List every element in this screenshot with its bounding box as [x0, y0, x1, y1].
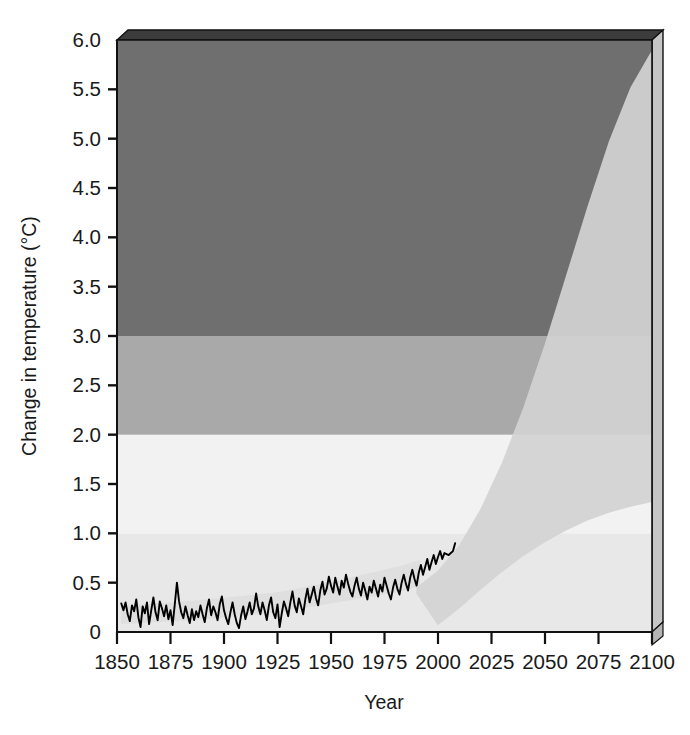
x-tick-label: 2075: [576, 650, 622, 673]
right-side-face: [652, 30, 663, 632]
y-tick-label: 1.0: [73, 521, 102, 544]
x-tick-label: 1950: [308, 650, 354, 673]
x-tick-label: 1925: [255, 650, 301, 673]
x-tick-label: 2100: [629, 650, 675, 673]
x-tick-label: 2025: [469, 650, 515, 673]
y-tick-label: 3.0: [73, 324, 102, 347]
y-tick-label: 0: [90, 620, 101, 643]
y-tick-label: 4.0: [73, 225, 102, 248]
y-tick-label: 2.0: [73, 423, 102, 446]
y-tick-label: 3.5: [73, 275, 102, 298]
x-tick-label: 1900: [201, 650, 247, 673]
y-axis-ticks: [108, 89, 117, 582]
y-tick-label: 2.5: [73, 373, 102, 396]
y-tick-label: 0.5: [73, 571, 102, 594]
x-tick-label: 2000: [415, 650, 461, 673]
x-tick-label: 1875: [148, 650, 194, 673]
y-axis-tick-labels: 00.51.01.52.02.53.03.54.04.55.05.56.0: [73, 28, 102, 643]
y-tick-label: 4.5: [73, 176, 102, 199]
x-axis-title: Year: [364, 691, 404, 713]
x-tick-label: 1850: [94, 650, 140, 673]
chart-canvas: 00.51.01.52.02.53.03.54.04.55.05.56.0 18…: [0, 0, 690, 735]
y-axis-title: Change in temperature (°C): [18, 216, 40, 456]
x-axis-ticks: [117, 632, 652, 644]
climate-projection-figure: 00.51.01.52.02.53.03.54.04.55.05.56.0 18…: [0, 0, 690, 735]
y-tick-label: 6.0: [73, 28, 102, 51]
x-axis-tick-labels: 1850187519001925195019752000202520502075…: [94, 650, 675, 673]
x-tick-label: 1975: [362, 650, 408, 673]
top-bevel-face: [117, 30, 663, 40]
x-tick-label: 2050: [522, 650, 568, 673]
y-tick-label: 1.5: [73, 472, 102, 495]
y-tick-label: 5.0: [73, 127, 102, 150]
y-tick-label: 5.5: [73, 77, 102, 100]
risk-band-group: [117, 40, 652, 632]
